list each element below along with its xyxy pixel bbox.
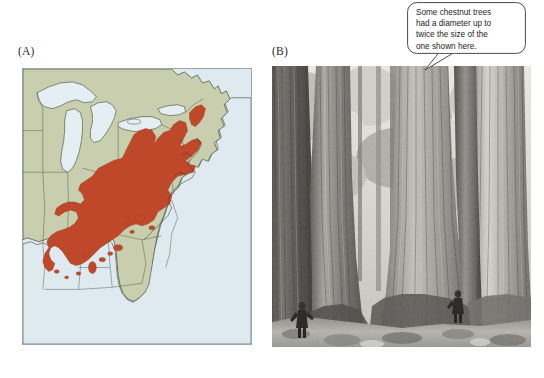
range-map-panel [22, 68, 252, 345]
photo-desaturate [272, 66, 531, 347]
panel-label-b: (B) [272, 45, 288, 57]
callout-text: Some chestnut trees had a diameter up to… [416, 7, 518, 52]
callout-line-1: Some chestnut trees [416, 7, 518, 18]
inland-water-accents [127, 119, 141, 124]
callout-line-2: had a diameter up to [416, 18, 518, 29]
chestnut-diameter-callout: Some chestnut trees had a diameter up to… [407, 2, 526, 54]
callout-line-4: one shown here. [416, 41, 518, 52]
callout-line-3: twice the size of the [416, 29, 518, 40]
panel-label-a: (A) [18, 45, 35, 57]
chestnut-photograph [272, 66, 531, 347]
range-map-graphic [23, 69, 251, 344]
chestnut-photograph-graphic [272, 66, 531, 347]
